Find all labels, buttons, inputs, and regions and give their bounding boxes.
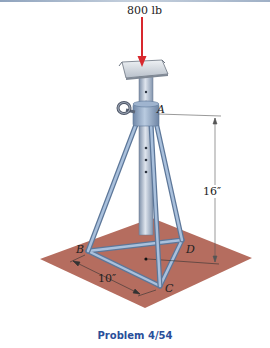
point-d-label: D: [186, 244, 195, 255]
load-label: 800 lb: [127, 5, 162, 16]
point-a-label: A: [157, 104, 165, 115]
base-dimension-label: 10″: [98, 273, 116, 284]
load-arrow: [138, 17, 147, 67]
point-c-label: C: [165, 283, 173, 294]
point-b-label: B: [76, 244, 84, 255]
collar: [133, 104, 159, 126]
figure-canvas: 800 lb A B C D 16″ 10″ Problem 4/54: [0, 0, 270, 348]
problem-caption: Problem 4/54: [0, 330, 270, 341]
height-dimension-label: 16″: [203, 185, 221, 198]
tripod-stand-diagram: [0, 0, 270, 348]
locking-handle: [118, 103, 135, 114]
center-point: [144, 257, 147, 260]
